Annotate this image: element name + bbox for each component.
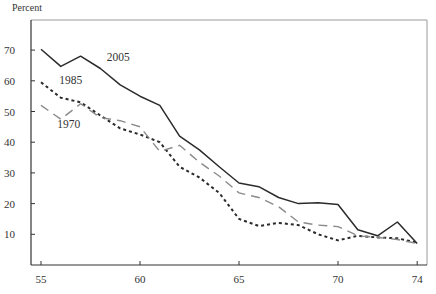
series-label-1985: 1985 bbox=[59, 74, 82, 86]
x-tick-label: 60 bbox=[135, 273, 147, 285]
series-line-1985 bbox=[41, 82, 417, 242]
y-axis-label: Percent bbox=[12, 2, 42, 13]
y-tick-label: 20 bbox=[4, 198, 16, 210]
x-tick-label: 55 bbox=[36, 273, 48, 285]
chart: Percent 102030405060705560657074 2005198… bbox=[0, 0, 436, 294]
y-tick-label: 50 bbox=[4, 106, 16, 118]
axes: 102030405060705560657074 bbox=[4, 20, 427, 285]
y-tick-label: 30 bbox=[4, 167, 16, 179]
x-tick-label: 70 bbox=[333, 273, 345, 285]
x-tick-label: 65 bbox=[234, 273, 246, 285]
series-line-1970 bbox=[41, 104, 417, 244]
y-tick-label: 40 bbox=[4, 136, 16, 148]
line-chart: Percent 102030405060705560657074 2005198… bbox=[0, 0, 436, 294]
series-layer bbox=[41, 49, 417, 243]
x-tick-label: 74 bbox=[412, 273, 424, 285]
y-tick-label: 70 bbox=[4, 44, 16, 56]
series-label-2005: 2005 bbox=[107, 51, 130, 63]
series-line-2005 bbox=[41, 49, 417, 243]
y-tick-label: 60 bbox=[4, 75, 16, 87]
series-label-1970: 1970 bbox=[57, 118, 80, 130]
y-tick-label: 10 bbox=[4, 228, 16, 240]
